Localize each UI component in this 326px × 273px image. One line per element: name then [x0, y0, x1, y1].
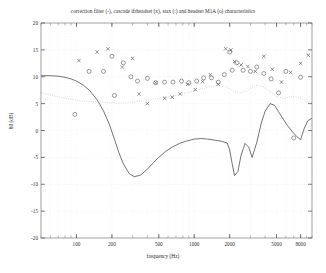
grid-lines	[41, 23, 312, 238]
marker-circle	[209, 76, 213, 80]
series-line-correction-filter	[41, 76, 312, 177]
x-tick-label: 500	[147, 241, 171, 247]
marker-circle	[262, 72, 266, 76]
marker-x	[246, 65, 249, 68]
x-tick-label: 100	[64, 241, 88, 247]
x-tick-label: 2000	[218, 241, 242, 247]
marker-x	[194, 88, 197, 91]
chart-figure: correction filter (-), cascade ifrheadse…	[0, 0, 326, 273]
marker-circle	[136, 79, 140, 83]
marker-x	[289, 71, 292, 74]
y-tick-label: -15	[18, 208, 38, 214]
x-tick-label: 8000	[289, 241, 313, 247]
marker-x	[121, 65, 124, 68]
marker-x	[262, 55, 265, 58]
marker-x	[95, 50, 98, 53]
y-tick-label: -5	[18, 154, 38, 160]
marker-circle	[121, 61, 125, 65]
y-tick-label: 10	[18, 74, 38, 80]
marker-x	[163, 97, 166, 100]
y-tick-label: 0	[18, 128, 38, 134]
marker-x	[280, 80, 283, 83]
y-tick-label: 5	[18, 101, 38, 107]
marker-x	[154, 81, 157, 84]
marker-circle	[269, 77, 273, 81]
y-tick-label: -10	[18, 181, 38, 187]
marker-x	[239, 63, 242, 66]
marker-circle	[277, 91, 281, 95]
y-tick-label: 15	[18, 47, 38, 53]
marker-circle	[216, 80, 220, 84]
marker-x	[307, 54, 310, 57]
marker-x	[137, 92, 140, 95]
y-tick-label: -20	[18, 235, 38, 241]
marker-x	[178, 92, 181, 95]
marker-x	[201, 80, 204, 83]
marker-circle	[202, 76, 206, 80]
marker-x	[271, 68, 274, 71]
plot-canvas	[0, 0, 326, 273]
marker-x	[77, 59, 80, 62]
marker-circle	[241, 68, 245, 72]
marker-circle	[102, 69, 106, 73]
marker-x	[254, 70, 257, 73]
marker-circle	[171, 80, 175, 84]
marker-x	[106, 47, 109, 50]
marker-circle	[230, 68, 234, 72]
marker-circle	[112, 94, 116, 98]
y-tick-label: 20	[18, 20, 38, 26]
x-tick-label: 200	[100, 241, 124, 247]
marker-circle	[255, 65, 259, 69]
x-tick-label: 1000	[182, 241, 206, 247]
marker-circle	[187, 81, 191, 85]
series-line-stax	[41, 85, 312, 103]
marker-x	[170, 95, 173, 98]
marker-circle	[195, 79, 199, 83]
marker-circle	[87, 69, 91, 73]
x-tick-label: 5000	[265, 241, 289, 247]
marker-circle	[163, 80, 167, 84]
marker-circle	[222, 73, 226, 77]
